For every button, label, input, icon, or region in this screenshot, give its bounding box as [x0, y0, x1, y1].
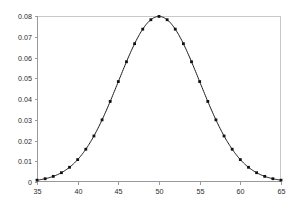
y-tick-label: 0.03 — [18, 116, 32, 125]
y-tick-label: 0.01 — [18, 157, 32, 166]
data-point-marker — [158, 15, 161, 18]
data-point-marker — [255, 171, 258, 174]
x-tick-label: 45 — [115, 187, 123, 196]
data-point-marker — [93, 135, 96, 138]
x-tick-label: 55 — [197, 187, 205, 196]
data-point-marker — [174, 28, 177, 31]
data-point-marker — [133, 42, 136, 45]
data-point-marker — [206, 100, 209, 103]
data-point-marker — [149, 18, 152, 21]
y-tick-label: 0.08 — [18, 12, 32, 21]
x-tick-label: 50 — [156, 187, 164, 196]
x-tick-label: 35 — [34, 187, 42, 196]
y-tick-label: 0 — [28, 178, 32, 187]
data-point-marker — [125, 60, 128, 63]
data-point-marker — [215, 118, 218, 121]
data-point-marker — [231, 148, 234, 151]
y-axis-ticks: 00.010.020.030.040.050.060.070.08 — [18, 12, 38, 187]
series-line-normal-pdf — [37, 16, 281, 180]
data-point-marker — [182, 42, 185, 45]
data-point-marker — [76, 158, 79, 161]
data-point-marker — [239, 158, 242, 161]
data-point-marker — [166, 18, 169, 21]
plot-area: 00.010.020.030.040.050.060.070.08 354045… — [0, 0, 297, 203]
y-tick-label: 0.04 — [18, 95, 32, 104]
x-tick-label: 40 — [75, 187, 83, 196]
x-tick-label: 60 — [237, 187, 245, 196]
data-point-marker — [36, 179, 39, 182]
series-path-group — [37, 16, 281, 180]
series-markers-group — [36, 15, 283, 182]
data-point-marker — [271, 177, 274, 180]
y-tick-label: 0.06 — [18, 54, 32, 63]
data-point-marker — [109, 100, 112, 103]
data-point-marker — [280, 179, 283, 182]
data-point-marker — [101, 118, 104, 121]
data-point-marker — [141, 28, 144, 31]
data-point-marker — [60, 171, 63, 174]
data-point-marker — [263, 175, 266, 178]
data-point-marker — [223, 135, 226, 138]
x-axis-ticks: 35404550556065 — [34, 182, 286, 196]
chart-frame — [37, 16, 281, 182]
data-point-marker — [190, 60, 193, 63]
y-tick-label: 0.02 — [18, 137, 32, 146]
data-point-marker — [68, 166, 71, 169]
bell-curve-chart: 00.010.020.030.040.050.060.070.08 354045… — [0, 0, 297, 203]
data-point-marker — [198, 80, 201, 83]
data-point-marker — [117, 80, 120, 83]
y-tick-label: 0.05 — [18, 74, 32, 83]
data-point-marker — [84, 148, 87, 151]
data-point-marker — [44, 177, 47, 180]
data-point-marker — [247, 166, 250, 169]
data-point-marker — [52, 175, 55, 178]
x-tick-label: 65 — [278, 187, 286, 196]
y-tick-label: 0.07 — [18, 33, 32, 42]
